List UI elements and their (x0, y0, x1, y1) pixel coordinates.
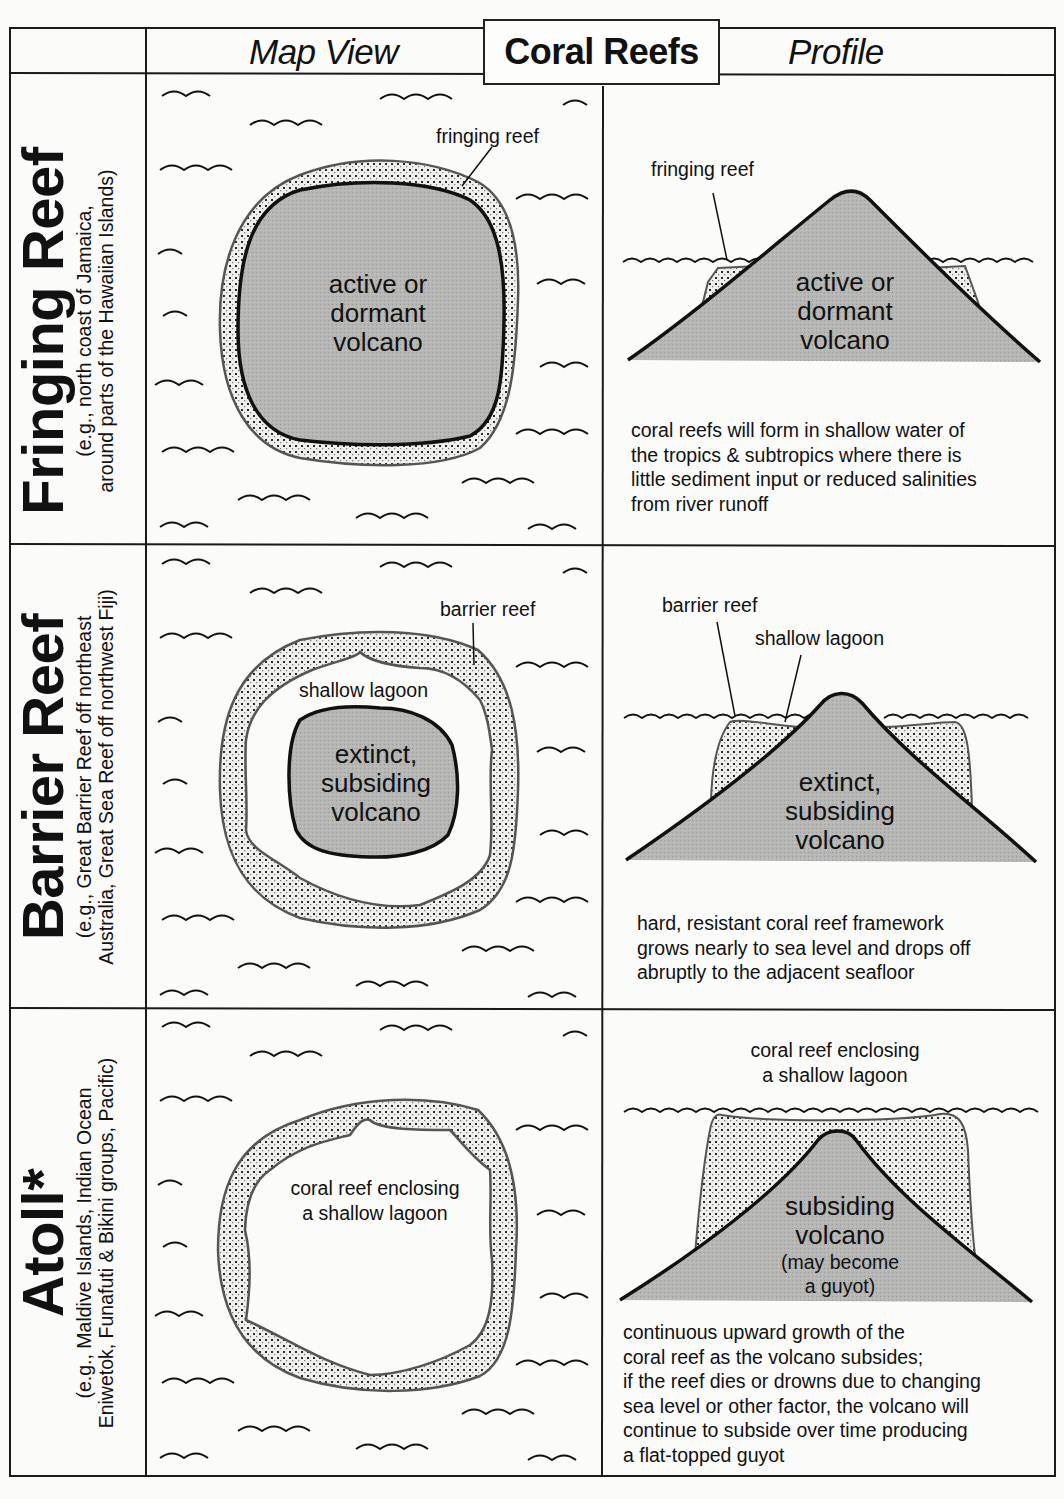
shallow-lagoon-map-label: shallow lagoon (299, 679, 428, 701)
barrier-profile-note: hard, resistant coral reef framework gro… (637, 911, 971, 985)
note-line: continue to subside over time producing (623, 1418, 981, 1443)
fringing-reef-profile-label: fringing reef (651, 158, 754, 180)
label-line: coral reef enclosing (720, 1038, 950, 1063)
note-line: abruptly to the adjacent seafloor (637, 960, 971, 985)
note-line: a flat-topped guyot (623, 1443, 981, 1468)
label-line: active or (298, 270, 458, 299)
label-line: active or (765, 268, 925, 297)
label-line: subsiding (760, 797, 920, 826)
note-line: hard, resistant coral reef framework (637, 911, 971, 936)
diagram-title: Coral Reefs (483, 19, 720, 85)
fringing-profile-note: coral reefs will form in shallow water o… (631, 418, 977, 516)
row-title: Fringing Reef (13, 101, 73, 561)
note-line: grows nearly to sea level and drops off (637, 936, 971, 961)
note-line: coral reef as the volcano subsides; (623, 1345, 981, 1370)
row-label-fringing-reef: Fringing Reef (e.g., north coast of Jama… (13, 101, 133, 561)
fringing-profile-volcano-label: active or dormant volcano (765, 268, 925, 355)
row-label-barrier-reef: Barrier Reef (e.g., Great Barrier Reef o… (13, 547, 133, 1007)
note-line: continuous upward growth of the (623, 1320, 981, 1345)
label-line: extinct, (760, 768, 920, 797)
label-line: volcano (760, 1221, 920, 1250)
label-line: subsiding (296, 769, 456, 798)
barrier-reef-profile-label: barrier reef (662, 594, 757, 616)
column-header-profile: Profile (788, 32, 884, 72)
atoll-profile-volcano-label: subsiding volcano (may become a guyot) (760, 1192, 920, 1298)
label-line: subsiding (760, 1192, 920, 1221)
barrier-profile-volcano-label: extinct, subsiding volcano (760, 768, 920, 855)
barrier-map-volcano-label: extinct, subsiding volcano (296, 740, 456, 827)
label-line: a shallow lagoon (720, 1063, 950, 1088)
fringing-reef-map-label: fringing reef (436, 125, 539, 147)
row-label-atoll: Atoll* (e.g., Maldive Islands, Indian Oc… (13, 1013, 133, 1473)
atoll-map-view (155, 1023, 588, 1461)
label-line: a guyot) (760, 1274, 920, 1298)
label-line: (may become (760, 1250, 920, 1274)
note-line: coral reefs will form in shallow water o… (631, 418, 977, 443)
row-title: Atoll* (13, 1013, 73, 1473)
atoll-map-lagoon-label: coral reef enclosing a shallow lagoon (260, 1176, 490, 1226)
note-line: if the reef dies or drowns due to changi… (623, 1369, 981, 1394)
row-examples-line1: (e.g., Great Barrier Reef off northeast (73, 547, 95, 1007)
label-line: dormant (765, 297, 925, 326)
barrier-reef-map-label: barrier reef (440, 598, 535, 620)
row-examples-line2: Australia, Great Sea Reef off northwest … (95, 547, 117, 1007)
sea-surface (624, 1109, 1038, 1113)
shallow-lagoon-profile-label: shallow lagoon (755, 627, 884, 649)
note-line: sea level or other factor, the volcano w… (623, 1394, 981, 1419)
column-header-map-view: Map View (249, 32, 398, 72)
label-line: volcano (765, 326, 925, 355)
label-line: volcano (298, 328, 458, 357)
note-line: the tropics & subtropics where there is (631, 443, 977, 468)
fringing-map-volcano-label: active or dormant volcano (298, 270, 458, 357)
row-examples-line2: around parts of the Hawaiian Islands) (95, 101, 117, 561)
atoll-profile-note: continuous upward growth of the coral re… (623, 1320, 981, 1467)
note-line: from river runoff (631, 492, 977, 517)
row-examples-line1: (e.g., Maldive Islands, Indian Ocean (73, 1013, 95, 1473)
row-title: Barrier Reef (13, 547, 73, 1007)
row-examples-line1: (e.g., north coast of Jamaica, (73, 101, 95, 561)
label-line: coral reef enclosing (260, 1176, 490, 1201)
label-line: volcano (296, 798, 456, 827)
label-line: extinct, (296, 740, 456, 769)
label-line: volcano (760, 826, 920, 855)
atoll-profile-top-label: coral reef enclosing a shallow lagoon (720, 1038, 950, 1088)
label-line: dormant (298, 299, 458, 328)
row-examples-line2: Eniwetok, Funafuti & Bikini groups, Paci… (95, 1013, 117, 1473)
note-line: little sediment input or reduced salinit… (631, 467, 977, 492)
label-line: a shallow lagoon (260, 1201, 490, 1226)
